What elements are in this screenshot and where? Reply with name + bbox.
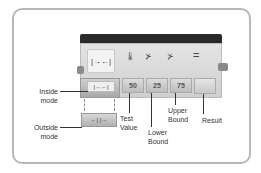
callout-line-inside: [60, 91, 88, 92]
thermometer-icon: 🌡: [125, 52, 135, 61]
inside-mode-icon: |→←|: [91, 57, 111, 66]
result-output: [194, 78, 216, 94]
callout-line-upper: [175, 93, 176, 105]
equals-icon: =: [193, 49, 199, 61]
callout-inside-mode: Insidemode: [30, 87, 58, 105]
lower-bound-icon: ⊁: [145, 52, 152, 61]
callout-test-value: TestValue: [120, 114, 137, 132]
callout-upper-bound: UpperBound: [168, 106, 188, 124]
mode-selector-button[interactable]: |→←|: [87, 49, 115, 73]
block-header: [80, 34, 222, 43]
callout-outside-mode: Outsidemode: [22, 123, 58, 141]
range-block: |→←| 🌡 ⊁ ⊁ = |→←| 50 25 75: [80, 34, 222, 98]
upper-bound-input[interactable]: 75: [170, 78, 192, 93]
callout-line-lower: [151, 93, 152, 127]
inside-mode-glyph: |→←|: [87, 81, 115, 92]
sequence-input-port: [77, 66, 84, 74]
test-value-input[interactable]: 50: [122, 78, 144, 93]
callout-lower-bound: LowerBound: [148, 128, 168, 146]
callout-result: Result: [202, 116, 222, 125]
outside-mode-glyph: ←| |→: [91, 117, 108, 123]
dash-left: [84, 99, 85, 111]
sequence-output-port: [218, 63, 228, 71]
callout-line-result: [203, 94, 204, 114]
callout-line-outside: [60, 127, 82, 128]
lower-bound-input[interactable]: 25: [146, 78, 168, 93]
outside-mode-bar[interactable]: ←| |→: [81, 113, 117, 127]
upper-bound-icon: ⊁: [167, 52, 174, 61]
inside-mode-bar[interactable]: |→←|: [80, 78, 120, 98]
dash-right: [114, 99, 115, 111]
callout-line-test: [129, 93, 130, 113]
